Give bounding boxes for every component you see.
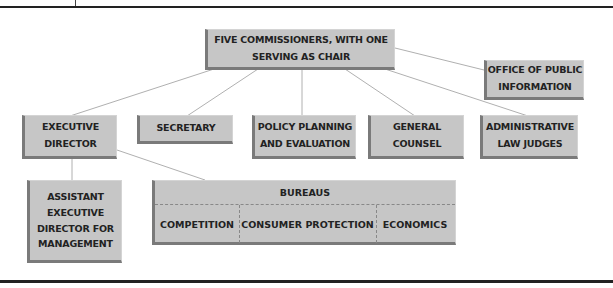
secretary-box: SECRETARY bbox=[137, 115, 233, 144]
assistant-executive-director-box: ASSISTANT EXECUTIVE DIRECTOR FOR MANAGEM… bbox=[27, 180, 122, 263]
commissioners-line2: SERVING AS CHAIR bbox=[214, 49, 388, 66]
commissioners-line1: FIVE COMMISSIONERS, WITH ONE bbox=[214, 32, 388, 49]
bureau-consumer-protection: CONSUMER PROTECTION bbox=[239, 205, 376, 243]
opi-line1: OFFICE OF PUBLIC bbox=[488, 62, 583, 79]
office-public-information-box: OFFICE OF PUBLIC INFORMATION bbox=[484, 60, 584, 100]
aed-line2: EXECUTIVE bbox=[37, 205, 114, 221]
aed-line4: MANAGEMENT bbox=[37, 236, 114, 252]
policy-planning-box: POLICY PLANNING AND EVALUATION bbox=[252, 115, 356, 159]
gc-line1: GENERAL bbox=[393, 119, 442, 136]
administrative-law-judges-box: ADMINISTRATIVE LAW JUDGES bbox=[480, 115, 578, 159]
bureau-economics: ECONOMICS bbox=[376, 205, 454, 243]
bureau-competition: COMPETITION bbox=[155, 205, 239, 243]
bureaus-title: BUREAUS bbox=[155, 181, 455, 204]
ed-line1: EXECUTIVE bbox=[42, 119, 99, 136]
alj-line2: LAW JUDGES bbox=[486, 136, 574, 153]
pp-line1: POLICY PLANNING bbox=[258, 119, 352, 136]
alj-line1: ADMINISTRATIVE bbox=[486, 119, 574, 136]
secretary-label: SECRETARY bbox=[156, 120, 215, 137]
opi-line2: INFORMATION bbox=[488, 79, 583, 96]
bureaus-box: BUREAUS COMPETITION CONSUMER PROTECTION … bbox=[152, 180, 456, 245]
pp-line2: AND EVALUATION bbox=[258, 136, 352, 153]
commissioners-box: FIVE COMMISSIONERS, WITH ONE SERVING AS … bbox=[205, 29, 395, 70]
aed-line3: DIRECTOR FOR bbox=[37, 221, 114, 237]
gc-line2: COUNSEL bbox=[393, 136, 442, 153]
general-counsel-box: GENERAL COUNSEL bbox=[368, 115, 464, 159]
executive-director-box: EXECUTIVE DIRECTOR bbox=[22, 115, 117, 159]
bottom-rule bbox=[0, 280, 613, 283]
aed-line1: ASSISTANT bbox=[37, 189, 114, 205]
ed-line2: DIRECTOR bbox=[42, 136, 99, 153]
